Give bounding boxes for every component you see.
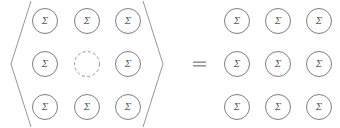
summation-node-label: Σ <box>315 59 323 69</box>
equation-canvas: Σ Σ Σ Σ <box>0 0 340 128</box>
summation-node-label: Σ <box>274 102 282 112</box>
left-grid-row: Σ Σ Σ <box>33 95 141 120</box>
left-grid-cell[interactable]: Σ <box>75 95 100 120</box>
summation-node-label: Σ <box>315 102 323 112</box>
right-grid-cell[interactable]: Σ <box>266 95 291 120</box>
right-grid-cell[interactable]: Σ <box>225 95 250 120</box>
right-grid-cell[interactable]: Σ <box>225 52 250 77</box>
summation-node-label: Σ <box>41 59 49 69</box>
right-grid-cell[interactable]: Σ <box>266 52 291 77</box>
summation-node-label: Σ <box>83 102 91 112</box>
left-grid-cell[interactable]: Σ <box>116 9 141 34</box>
summation-node-label: Σ <box>83 16 91 26</box>
left-grid-cell-empty[interactable] <box>75 52 100 77</box>
summation-node-label: Σ <box>124 16 132 26</box>
left-angle-bracket-open-icon <box>11 1 31 127</box>
summation-node-label: Σ <box>274 59 282 69</box>
right-grid-row: Σ Σ Σ <box>225 52 332 77</box>
summation-node-label: Σ <box>124 59 132 69</box>
left-grid-cell[interactable]: Σ <box>75 9 100 34</box>
summation-node-label: Σ <box>274 16 282 26</box>
right-grid-cell[interactable]: Σ <box>307 52 332 77</box>
right-grid-row: Σ Σ Σ <box>225 9 332 34</box>
right-grid-cell[interactable]: Σ <box>266 9 291 34</box>
summation-node-label: Σ <box>41 16 49 26</box>
summation-node-label: Σ <box>124 102 132 112</box>
left-grid-cell[interactable]: Σ <box>116 52 141 77</box>
summation-node-label: Σ <box>233 102 241 112</box>
left-grid-cell[interactable]: Σ <box>33 95 58 120</box>
left-grid-row: Σ Σ Σ <box>33 9 141 34</box>
right-angle-bracket-close-icon <box>143 1 163 127</box>
equation-figure: Σ Σ Σ Σ <box>0 0 340 128</box>
left-grid-cell[interactable]: Σ <box>116 95 141 120</box>
left-grid-cell[interactable]: Σ <box>33 9 58 34</box>
left-grid-cell[interactable]: Σ <box>33 52 58 77</box>
summation-node-label: Σ <box>315 16 323 26</box>
right-grid-row: Σ Σ Σ <box>225 95 332 120</box>
equals-sign <box>193 62 206 66</box>
left-expression: Σ Σ Σ Σ <box>11 1 163 127</box>
summation-node-label: Σ <box>41 102 49 112</box>
right-grid-cell[interactable]: Σ <box>225 9 250 34</box>
right-grid-cell[interactable]: Σ <box>307 95 332 120</box>
summation-node-label: Σ <box>233 16 241 26</box>
left-grid-row: Σ Σ <box>33 52 141 77</box>
empty-dashed-node-circle <box>75 52 100 77</box>
summation-node-label: Σ <box>233 59 241 69</box>
right-grid-cell[interactable]: Σ <box>307 9 332 34</box>
right-expression: Σ Σ Σ Σ Σ <box>225 9 332 120</box>
